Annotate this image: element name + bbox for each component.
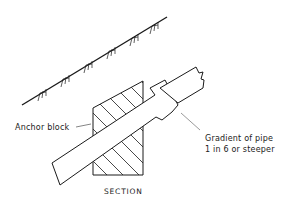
gradient-leader — [181, 113, 200, 130]
anchor-block-leader — [76, 124, 91, 127]
section-caption: SECTION — [104, 187, 143, 196]
section-drawing — [0, 0, 292, 202]
anchor-block-label: Anchor block — [15, 123, 69, 132]
gradient-label-line2: 1 in 6 or steeper — [205, 145, 275, 154]
ground-surface — [22, 17, 167, 105]
gradient-label-line1: Gradient of pipe — [205, 134, 273, 143]
pipe — [52, 67, 204, 185]
